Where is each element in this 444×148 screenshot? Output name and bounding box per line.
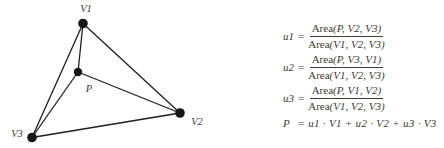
equation-u2: u2 = Area(P, V3, V1) Area(V1, V2, V3) [283, 53, 437, 82]
edge-v1-v2 [83, 24, 180, 114]
point-p-dot [74, 68, 82, 76]
u1-equals-sign: = [298, 30, 304, 43]
area-function-label: Area [308, 38, 329, 50]
area-function-label: Area [308, 100, 329, 112]
u2-denominator: Area(V1, V2, V3) [308, 68, 384, 82]
vertex-v1-label: V1 [80, 3, 92, 14]
equation-result: P = u1 · V1 + u2 · V2 + u3 · V3 [283, 117, 437, 130]
u2-symbol: u2 [283, 61, 296, 74]
u2-denominator-args: (V1, V2, V3) [330, 69, 385, 81]
u3-denominator: Area(V1, V2, V3) [308, 99, 384, 113]
u3-numerator-args: (P, V1, V2) [333, 84, 381, 96]
u3-equals-sign: = [298, 92, 304, 105]
vertex-v1-dot [78, 19, 88, 29]
u3-denominator-args: (V1, V2, V3) [330, 100, 385, 112]
area-function-label: Area [312, 53, 333, 65]
u3-numerator: Area(P, V1, V2) [310, 84, 383, 99]
u1-numerator-args: (P, V2, V3) [333, 22, 381, 34]
result-equals-sign: = [298, 117, 304, 130]
u2-fraction: Area(P, V3, V1) Area(V1, V2, V3) [308, 53, 384, 82]
u2-numerator-args: (P, V3, V1) [333, 53, 381, 65]
u3-fraction: Area(P, V1, V2) Area(V1, V2, V3) [308, 84, 384, 113]
area-function-label: Area [308, 69, 329, 81]
equations-block: u1 = Area(P, V2, V3) Area(V1, V2, V3) u2… [283, 22, 437, 130]
equation-u3: u3 = Area(P, V1, V2) Area(V1, V2, V3) [283, 84, 437, 113]
vertex-v3-label: V3 [11, 128, 23, 139]
edge-v2-v3 [32, 113, 180, 138]
segment-p-v2 [78, 72, 180, 113]
barycentric-coordinates-figure: V1 V2 V3 P u1 = Area(P, V2, V3) Area(V1,… [0, 0, 444, 148]
u1-fraction: Area(P, V2, V3) Area(V1, V2, V3) [308, 22, 384, 51]
segment-p-v3 [32, 72, 78, 138]
edge-v1-v3 [32, 24, 83, 138]
area-function-label: Area [312, 84, 333, 96]
vertex-v2-dot [175, 108, 185, 118]
u1-numerator: Area(P, V2, V3) [310, 22, 383, 37]
u1-denominator-args: (V1, V2, V3) [330, 38, 385, 50]
u2-numerator: Area(P, V3, V1) [310, 53, 383, 68]
result-expression: u1 · V1 + u2 · V2 + u3 · V3 [308, 117, 436, 130]
segment-p-v1 [78, 24, 83, 73]
point-p-label: P [85, 83, 93, 94]
triangle-diagram: V1 V2 V3 P [0, 0, 230, 148]
u1-symbol: u1 [283, 30, 296, 43]
u1-denominator: Area(V1, V2, V3) [308, 37, 384, 51]
u3-symbol: u3 [283, 92, 296, 105]
p-symbol: P [283, 117, 296, 130]
vertex-v2-label: V2 [191, 116, 203, 127]
u2-equals-sign: = [298, 61, 304, 74]
vertex-v3-dot [27, 133, 37, 143]
area-function-label: Area [312, 22, 333, 34]
equation-u1: u1 = Area(P, V2, V3) Area(V1, V2, V3) [283, 22, 437, 51]
